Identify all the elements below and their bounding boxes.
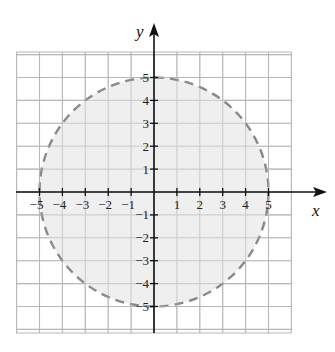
x-tick-label: −3 <box>75 197 89 212</box>
y-tick-label: 4 <box>143 93 150 108</box>
x-tick-label: 1 <box>174 197 181 212</box>
y-tick-label: −5 <box>135 299 149 314</box>
y-tick-label: −2 <box>135 230 149 245</box>
x-tick-label: 3 <box>219 197 226 212</box>
y-tick-label: 2 <box>143 139 150 154</box>
x-tick-label: −4 <box>52 197 66 212</box>
x-tick-label: −1 <box>121 197 135 212</box>
coordinate-plane: −5−4−3−2−112345−5−4−3−2−112345 x y <box>0 0 335 352</box>
x-tick-label: 2 <box>197 197 204 212</box>
y-tick-label: 1 <box>143 162 150 177</box>
x-tick-label: −2 <box>98 197 112 212</box>
x-axis-label: x <box>311 201 320 220</box>
y-axis-label: y <box>134 22 144 41</box>
x-tick-label: 4 <box>242 197 249 212</box>
y-tick-label: 3 <box>143 116 150 131</box>
x-tick-label: 5 <box>265 197 272 212</box>
y-tick-label: −1 <box>135 207 149 222</box>
y-tick-label: −3 <box>135 253 149 268</box>
y-tick-label: 5 <box>143 70 150 85</box>
x-tick-label: −5 <box>30 197 44 212</box>
y-tick-label: −4 <box>135 276 149 291</box>
